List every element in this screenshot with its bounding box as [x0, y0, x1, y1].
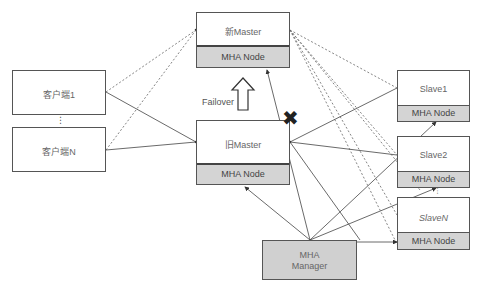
slave-2-label: Slave2: [398, 150, 469, 160]
slave-ellipsis: ⋮: [434, 187, 441, 195]
new-master-mha-node: MHA Node: [197, 45, 289, 67]
mha-manager-box: MHA Manager: [262, 240, 357, 280]
new-master-box: 新Master MHA Node: [196, 12, 290, 68]
slave-n-mha-node: MHA Node: [398, 232, 469, 249]
slave-2-box: Slave2 MHA Node: [397, 136, 470, 188]
slave-n-label: SlaveN: [398, 213, 469, 223]
slave-1-mha-node: MHA Node: [398, 105, 469, 121]
new-master-label: 新Master: [197, 25, 289, 38]
failover-arrow-icon: [232, 78, 254, 110]
client-1-box: 客户端1: [12, 70, 106, 115]
slave-n-box: SlaveN MHA Node: [397, 197, 470, 250]
manager-line2: Manager: [263, 261, 356, 272]
slave-1-label: Slave1: [398, 84, 469, 94]
client-ellipsis: ⋮: [56, 115, 65, 125]
failed-x-icon: ✖: [282, 106, 299, 130]
client-n-box: 客户端N: [12, 127, 106, 172]
old-master-label: 旧Master: [197, 138, 289, 151]
old-master-box: 旧Master MHA Node: [196, 120, 290, 185]
old-master-mha-node: MHA Node: [197, 163, 289, 184]
slave-1-box: Slave1 MHA Node: [397, 70, 470, 122]
slave-2-mha-node: MHA Node: [398, 171, 469, 187]
client-1-label: 客户端1: [13, 88, 105, 101]
client-n-label: 客户端N: [13, 145, 105, 158]
manager-line1: MHA: [263, 250, 356, 261]
failover-label: Failover: [202, 97, 234, 107]
